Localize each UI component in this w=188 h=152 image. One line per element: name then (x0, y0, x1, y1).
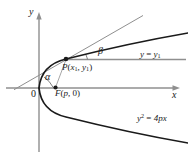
x-axis-label: x (172, 90, 176, 100)
curve-equation-equals: = (144, 113, 154, 123)
horizontal-line-equals: = (144, 49, 154, 59)
parabola-figure: y x 0 α β P(x1, y1) F(p, 0) y = y1 y2 = … (0, 0, 188, 152)
focus-f-label: F(p, 0) (55, 89, 80, 98)
y-axis-arrowhead (36, 12, 41, 20)
focus-f-close: ) (77, 88, 80, 98)
point-p-close: ) (89, 62, 92, 72)
tangent-line (14, 16, 143, 90)
angle-alpha-label: α (45, 72, 50, 82)
curve-equation-rhs: 4px (154, 113, 167, 123)
angle-beta-label: β (98, 46, 103, 56)
origin-label: 0 (31, 89, 36, 99)
curve-equation-label: y2 = 4px (137, 113, 167, 123)
parabola-upper-branch (39, 33, 188, 88)
point-p-label: P(x1, y1) (62, 63, 92, 72)
angle-beta-arc (86, 55, 88, 59)
y-axis-label: y (29, 7, 33, 17)
horizontal-line-rhs-subscript: 1 (158, 53, 161, 59)
point-p-marker (64, 57, 69, 62)
figure-canvas (0, 0, 188, 152)
horizontal-line-label: y = y1 (140, 50, 161, 59)
